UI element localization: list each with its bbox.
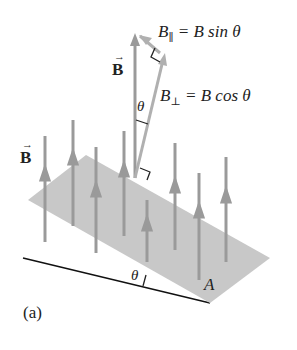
angle-label-bottom: θ [131, 267, 138, 284]
angle-label-top: θ [137, 98, 144, 115]
parallel-component-label: B∥ = B sin θ [158, 22, 241, 44]
perpendicular-component-label: B⊥ = B cos θ [160, 86, 251, 108]
panel-label: (a) [23, 303, 42, 323]
diagram-canvas [0, 0, 297, 350]
area-label: A [204, 275, 214, 295]
field-vector-label-top: →B [112, 60, 123, 80]
field-vector-label: →B [20, 148, 31, 168]
